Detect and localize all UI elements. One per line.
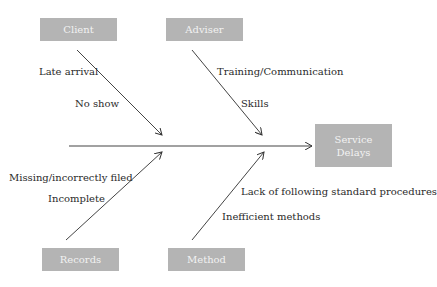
category-method-label: Method — [187, 253, 226, 266]
cause-lack-of-standard-procedures: Lack of following standard procedures — [241, 186, 437, 197]
cause-training-communication: Training/Communication — [217, 66, 343, 77]
cause-incomplete: Incomplete — [48, 193, 105, 204]
cause-no-show: No show — [75, 98, 119, 109]
cause-missing-incorrectly-filed: Missing/incorrectly filed — [9, 172, 133, 183]
cause-skills: Skills — [241, 98, 269, 109]
effect-box: Service Delays — [315, 124, 392, 167]
adviser-bone — [192, 50, 262, 135]
category-client-label: Client — [63, 23, 93, 36]
category-method-box: Method — [168, 248, 245, 271]
category-records-label: Records — [60, 253, 101, 266]
effect-label-line1: Service — [335, 133, 373, 146]
cause-late-arrival: Late arrival — [39, 66, 98, 77]
cause-inefficient-methods: Inefficient methods — [222, 211, 320, 222]
category-client-box: Client — [40, 18, 117, 41]
category-adviser-box: Adviser — [166, 18, 243, 41]
effect-label-line2: Delays — [337, 146, 371, 159]
category-records-box: Records — [42, 248, 119, 271]
category-adviser-label: Adviser — [185, 23, 223, 36]
client-bone — [77, 50, 162, 135]
